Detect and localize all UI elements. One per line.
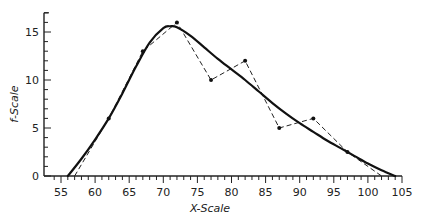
data-point-marker xyxy=(277,126,281,130)
data-point-marker xyxy=(209,78,213,82)
x-axis: 556065707580859095100105 xyxy=(44,176,413,199)
frequency-polygon xyxy=(75,22,382,176)
x-tick-label: 70 xyxy=(156,186,170,199)
x-tick-label: 55 xyxy=(54,186,68,199)
x-axis-title: X-Scale xyxy=(189,202,230,215)
x-tick-label: 80 xyxy=(225,186,239,199)
y-tick-label: 15 xyxy=(25,26,39,39)
chart: 051015 556065707580859095100105 X-Scale … xyxy=(0,0,426,223)
data-point-marker xyxy=(175,20,179,24)
y-tick-label: 0 xyxy=(32,170,39,183)
x-tick-label: 105 xyxy=(392,186,413,199)
x-tick-label: 75 xyxy=(190,186,204,199)
y-tick-label: 10 xyxy=(25,74,39,87)
y-axis-title: f-Scale xyxy=(8,85,21,122)
x-tick-label: 60 xyxy=(88,186,102,199)
x-tick-label: 100 xyxy=(357,186,378,199)
series-layer xyxy=(68,20,395,176)
y-axis: 051015 xyxy=(25,13,51,183)
x-tick-label: 85 xyxy=(259,186,273,199)
x-tick-label: 90 xyxy=(293,186,307,199)
y-tick-label: 5 xyxy=(32,122,39,135)
smoothed-curve xyxy=(68,26,395,176)
data-point-marker xyxy=(243,59,247,63)
x-tick-label: 65 xyxy=(122,186,136,199)
data-point-marker xyxy=(311,116,315,120)
x-tick-label: 95 xyxy=(327,186,341,199)
